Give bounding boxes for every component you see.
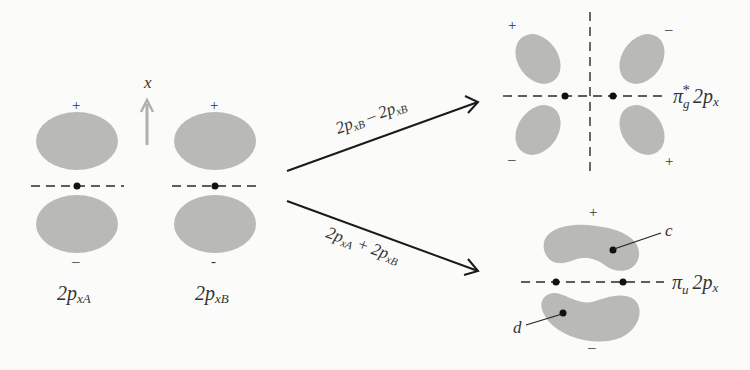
lobe-top-a [36, 112, 118, 170]
lobe-lower-kidney [541, 293, 639, 341]
lobe-bottom-b [174, 195, 256, 253]
mo-diagram: + – 2pxA x + - 2pxB 2pxB–2pxB 2pxA+2pxB [0, 0, 750, 370]
sign-bottom-left: – [507, 151, 516, 167]
nucleus-right [620, 279, 627, 286]
nucleus-a [74, 183, 81, 190]
nucleus-left [553, 279, 560, 286]
sign-top: + [589, 204, 597, 220]
sign-minus-a: – [71, 253, 80, 269]
label-c: c [665, 221, 673, 240]
arrow-antibonding: 2pxB–2pxB [287, 95, 478, 171]
lobe-top-b [174, 112, 256, 170]
mo-pi-u: + c d – πu2px [513, 204, 719, 355]
lobe-upper-kidney [544, 225, 639, 271]
sign-top-right: – [664, 21, 673, 37]
x-axis-indicator: x [141, 73, 153, 145]
sign-bottom-right: + [665, 153, 673, 169]
label-2pxA: 2pxA [57, 282, 91, 306]
arrow-bonding: 2pxA+2pxB [287, 201, 478, 275]
lobe-bottom-a [36, 195, 118, 253]
sign-minus-b: - [211, 253, 216, 269]
sign-bottom: – [587, 339, 596, 355]
atomic-orbital-b: + - 2pxB [172, 97, 262, 306]
point-c [610, 247, 617, 254]
x-axis-label: x [143, 73, 152, 92]
sign-plus-a: + [72, 97, 80, 113]
label-2pxB: 2pxB [195, 282, 229, 306]
label-pi-u: πu2px [672, 271, 719, 297]
sign-top-left: + [508, 17, 516, 33]
atomic-orbital-a: + – 2pxA [31, 97, 124, 306]
nucleus-b [212, 183, 219, 190]
lobe-top-left [506, 25, 570, 92]
label-pi-g-star: πg*2px [673, 82, 719, 111]
lobe-bottom-left [506, 96, 570, 163]
mo-pi-g-star: + – – + πg*2px [503, 12, 719, 172]
nucleus-left [562, 93, 569, 100]
nucleus-right [610, 93, 617, 100]
label-d: d [513, 318, 522, 337]
sign-plus-b: + [210, 97, 218, 113]
label-difference: 2pxB–2pxB [333, 95, 409, 139]
point-d [560, 310, 567, 317]
